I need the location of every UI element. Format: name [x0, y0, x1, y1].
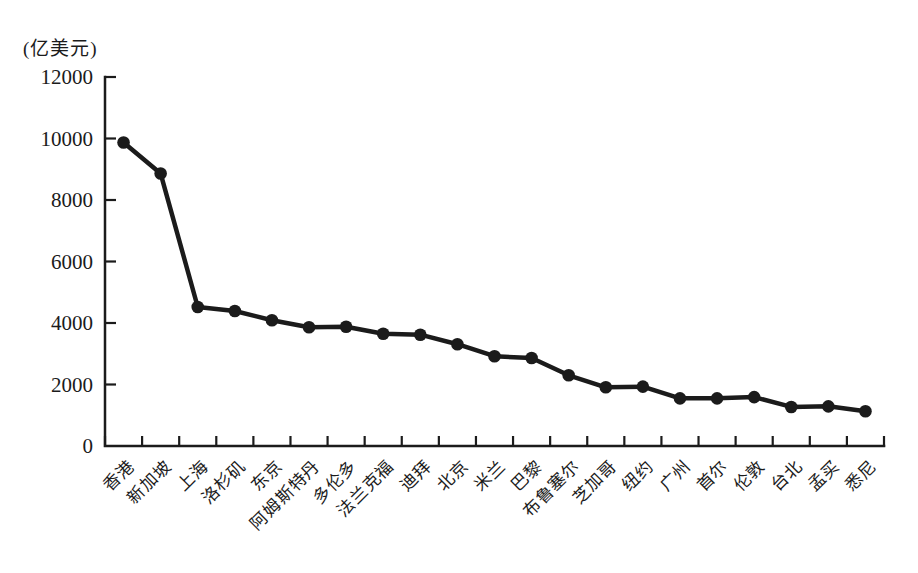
data-point [525, 352, 538, 365]
y-tick-label: 8000 [51, 188, 93, 212]
data-point [266, 314, 279, 327]
data-point [377, 327, 390, 340]
x-category-label: 伦敦 [730, 456, 769, 495]
data-point [674, 392, 687, 405]
y-tick-label: 6000 [51, 250, 93, 274]
data-point [822, 400, 835, 413]
y-tick-label: 4000 [51, 311, 93, 335]
data-point [154, 167, 167, 180]
y-tick-label: 12000 [41, 65, 94, 89]
data-point [340, 320, 353, 333]
data-point [117, 136, 130, 149]
x-category-label: 米兰 [470, 456, 509, 495]
data-point [488, 350, 501, 363]
data-point [859, 405, 872, 418]
data-point [191, 301, 204, 314]
data-point [562, 369, 575, 382]
data-point [637, 380, 650, 393]
x-category-label: 北京 [433, 456, 472, 495]
y-tick-label: 2000 [51, 373, 93, 397]
x-category-label: 纽约 [619, 456, 658, 495]
x-category-label: 广州 [656, 456, 695, 495]
y-tick-label: 0 [83, 434, 94, 458]
y-tick-label: 10000 [41, 127, 94, 151]
y-axis-unit-label: (亿美元) [23, 33, 98, 60]
line-chart-figure: (亿美元) 020004000600080001000012000香港新加坡上海… [0, 0, 918, 573]
x-category-label: 迪拜 [396, 456, 435, 495]
x-category-label: 首尔 [693, 456, 732, 495]
data-point [599, 381, 612, 394]
axes [105, 77, 884, 446]
chart-svg: 020004000600080001000012000香港新加坡上海洛杉矶东京阿… [0, 0, 918, 573]
data-point [711, 392, 724, 405]
data-point [785, 401, 798, 414]
data-line [124, 142, 866, 411]
data-point [748, 391, 761, 404]
x-category-label: 台北 [767, 456, 806, 495]
x-category-label: 孟买 [804, 456, 843, 495]
data-point [303, 321, 316, 334]
data-point [229, 305, 242, 318]
data-point [451, 338, 464, 351]
x-category-label: 悉尼 [841, 456, 880, 495]
data-point [414, 328, 427, 341]
